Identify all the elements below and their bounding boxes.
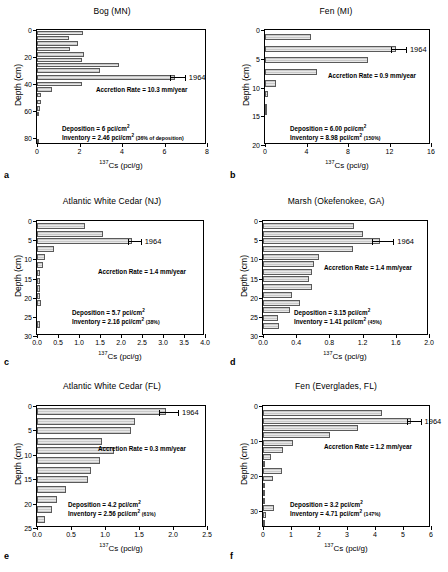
marker-1964 [391,49,407,50]
x-tick-label: 6 [163,148,167,155]
bar [263,307,290,313]
bar [37,496,57,503]
x-tick [431,143,432,147]
x-tick [184,334,185,338]
accretion-rate-note: Accretion Rate = 1.2 mm/year [324,443,412,450]
x-tick-label: 0.0 [32,531,42,538]
y-tick-label: 0 [256,27,260,34]
x-tick [207,526,208,530]
marker-1964 [128,241,142,242]
x-tick-label: 1.0 [100,531,110,538]
bar [37,457,100,464]
y-tick-label: 15 [250,275,258,282]
y-tick-label: 0 [28,218,32,225]
inventory-note: Inventory = 2.46 pci/cm2 (36% of deposit… [62,133,184,141]
deposition-note: Deposition = 5.7 pci/cm2 [72,308,145,316]
bar [37,47,70,51]
bar [37,41,78,45]
bar [263,425,358,431]
y-tick-label: 20 [250,294,258,301]
bar [37,476,88,483]
y-tick-label: 0 [28,27,32,34]
bar [37,238,132,244]
x-tick [79,334,80,338]
x-tick-label: 1 [289,531,293,538]
y-tick-label: 15 [24,275,32,282]
y-tick-label: 5 [254,237,258,244]
y-tick-label: 80 [24,135,32,142]
x-tick-label: 2.5 [137,339,147,346]
bar [37,293,40,299]
y-tick [259,476,263,477]
panel-title: Bog (MN) [0,6,224,16]
bar [263,468,282,474]
y-tick [33,317,37,318]
bar [37,408,166,415]
y-tick [261,88,265,89]
bar [37,321,40,327]
x-tick [105,526,106,530]
y-tick [33,504,37,505]
y-tick-label: 15 [252,113,260,120]
x-tick [121,334,122,338]
bar [37,63,119,67]
panel-b: Fen (MI)0510152004812161964Depth (cm)137… [224,0,448,190]
y-tick [33,479,37,480]
bar [265,46,396,52]
bar [263,512,266,518]
bar [263,490,265,496]
x-axis-title: 137Cs (pci/g) [36,350,204,361]
y-tick-label: 10 [252,84,260,91]
x-tick [329,334,330,338]
y-tick [33,30,37,31]
bar [37,467,91,474]
x-tick-label: 1.6 [391,339,401,346]
y-tick [259,279,263,280]
y-tick-label: 40 [24,81,32,88]
panel-e: Atlantic White Cedar (FL)05101520250.00.… [0,375,224,572]
bar [263,476,273,482]
panel-title: Fen (MI) [224,6,448,16]
bar [37,506,52,513]
marker-1964-label: 1964 [397,236,414,245]
x-tick [80,143,81,147]
x-tick-label: 0 [261,531,265,538]
figure-grid: Bog (MN)020406080024681964Depth (cm)137C… [0,0,448,572]
x-axis-title: 137Cs (pci/g) [36,542,206,553]
y-tick-label: 15 [24,476,32,483]
x-tick-label: 4.0 [200,339,210,346]
bar [263,505,274,511]
bar [263,261,314,267]
deposition-note: Deposition = 4.2 pci/cm2 [68,500,141,508]
x-tick [58,334,59,338]
bar [37,52,84,56]
y-tick-label: 0 [254,403,258,410]
marker-1964-label: 1964 [425,416,442,425]
y-tick [33,240,37,241]
panel-letter: e [4,551,9,561]
accretion-rate-note: Accretion Rate = 0.3 mm/year [98,445,186,452]
bar [37,427,131,434]
x-tick [205,334,206,338]
bar [265,109,267,115]
x-tick-label: 2.5 [202,531,212,538]
panel-c: Atlantic White Cedar (NJ)0510152025300.0… [0,190,224,375]
x-tick-label: 2.0 [116,339,126,346]
deposition-note: Deposition = 3.15 pci/cm2 [294,308,370,316]
bar [263,238,380,244]
x-tick-label: 1.0 [74,339,84,346]
y-axis-title: Depth (cm) [239,434,249,494]
y-tick [259,406,263,407]
y-tick-label: 25 [24,313,32,320]
x-tick [363,334,364,338]
y-tick-label: 20 [24,294,32,301]
x-tick [37,334,38,338]
x-tick-label: 2 [317,531,321,538]
x-tick [165,143,166,147]
bar [263,454,271,460]
bar [37,36,69,40]
x-tick [396,334,397,338]
x-tick-label: 3.5 [179,339,189,346]
y-tick-label: 60 [24,108,32,115]
y-tick-label: 25 [250,313,258,320]
